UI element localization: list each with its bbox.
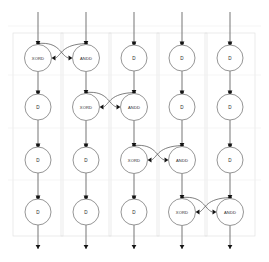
node-delay-r2c0[interactable]: D bbox=[25, 147, 51, 173]
arrow-into-xor-right bbox=[196, 210, 200, 215]
arrow-into-and-left bbox=[165, 158, 169, 163]
arrow-output bbox=[84, 245, 89, 249]
arrow-into-xor-right bbox=[100, 105, 104, 110]
arrow-output bbox=[132, 245, 137, 249]
node-delay-r1c0[interactable]: D bbox=[25, 94, 51, 120]
node-gate-and-r3c4[interactable]: ANDD bbox=[217, 199, 244, 226]
arrow-into-and-left bbox=[213, 210, 217, 215]
arrow-output bbox=[228, 245, 233, 249]
node-gate-and-r1c2[interactable]: ANDD bbox=[121, 94, 148, 121]
arrow-output bbox=[180, 245, 185, 249]
arrow-output bbox=[36, 245, 41, 249]
node-label: ANDD bbox=[128, 105, 140, 110]
node-label: XORD bbox=[80, 105, 92, 110]
node-delay-r2c4[interactable]: D bbox=[217, 147, 243, 173]
node-delay-r1c3[interactable]: D bbox=[169, 94, 195, 120]
node-gate-xor-r1c1[interactable]: XORD bbox=[73, 94, 100, 121]
arrow-into-and-left bbox=[69, 56, 73, 61]
node-delay-r0c3[interactable]: D bbox=[169, 45, 195, 71]
node-label: ANDD bbox=[176, 158, 188, 163]
node-delay-r3c2[interactable]: D bbox=[121, 199, 147, 225]
node-delay-r3c0[interactable]: D bbox=[25, 199, 51, 225]
node-delay-r2c1[interactable]: D bbox=[73, 147, 99, 173]
node-label: ANDD bbox=[224, 210, 236, 215]
circuit-schematic-svg: XORDANDDDDDDXORDANDDDDDDXORDANDDDDDDXORD… bbox=[0, 0, 269, 262]
node-label: XORD bbox=[176, 210, 188, 215]
node-gate-xor-r2c2[interactable]: XORD bbox=[121, 147, 148, 174]
node-delay-r1c4[interactable]: D bbox=[217, 94, 243, 120]
node-label: ANDD bbox=[80, 56, 92, 61]
arrow-into-xor-right bbox=[52, 56, 56, 61]
node-gate-xor-r0c0[interactable]: XORD bbox=[25, 45, 52, 72]
node-gate-xor-r3c3[interactable]: XORD bbox=[169, 199, 196, 226]
node-delay-r0c4[interactable]: D bbox=[217, 45, 243, 71]
arrow-into-xor-right bbox=[148, 158, 152, 163]
node-label: XORD bbox=[32, 56, 44, 61]
arrow-into-and-left bbox=[117, 105, 121, 110]
node-delay-r3c1[interactable]: D bbox=[73, 199, 99, 225]
node-gate-and-r0c1[interactable]: ANDD bbox=[73, 45, 100, 72]
node-label: XORD bbox=[128, 158, 140, 163]
circuit-diagram-canvas: XORDANDDDDDDXORDANDDDDDDXORDANDDDDDDXORD… bbox=[0, 0, 269, 262]
node-gate-and-r2c3[interactable]: ANDD bbox=[169, 147, 196, 174]
node-delay-r0c2[interactable]: D bbox=[121, 45, 147, 71]
